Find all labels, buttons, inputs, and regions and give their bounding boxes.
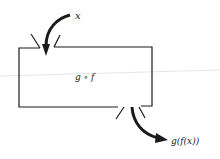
arrowhead-icon	[155, 133, 168, 143]
scan-line	[0, 70, 220, 76]
output-label: g(f(x))	[171, 136, 200, 146]
input-arrow	[42, 15, 70, 56]
output-arrow	[132, 107, 168, 143]
function-label: g ∘ f	[75, 72, 96, 82]
input-label: x	[75, 10, 81, 21]
arrowhead-icon	[42, 44, 50, 56]
composition-diagram: x g ∘ f g(f(x))	[0, 0, 220, 159]
